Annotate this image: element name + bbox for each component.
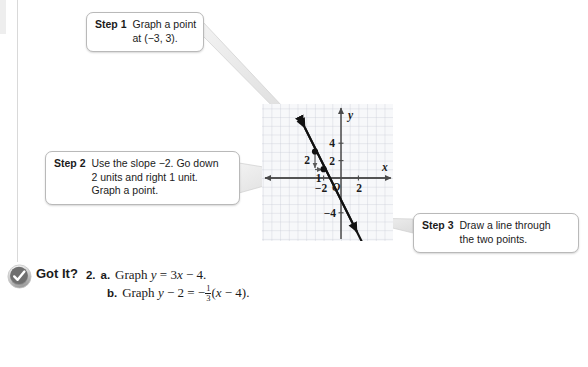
problem-2b-tail: − 4). [222,285,250,300]
problem-2b-fraction: 13 [205,284,211,303]
problem-2b: b. Graph y − 2 = −13(x − 4). [86,284,250,304]
point-neg2-1 [321,166,327,172]
callout-step-1: Step 1 Graph a point at (−3, 3). [86,12,204,52]
rise-label: 2 [304,154,310,166]
problem-2a-letter: a. [100,266,110,284]
problem-2a-text: Graph y = 3x − 4. [115,266,206,284]
step-1-line-1: Graph a point [133,18,197,32]
problem-2a-equals: = 3 [157,267,177,282]
step-2-text: Use the slope −2. Go down 2 units and ri… [92,157,231,198]
problem-2b-prefix: Graph [122,285,158,300]
step-2-line-1: Use the slope −2. Go down [92,157,231,171]
problem-2b-text: Graph y − 2 = −13(x − 4). [122,284,249,304]
step-3-text: Draw a line through the two points. [460,219,570,246]
y-axis-label: y [346,109,354,122]
step-1-label: Step 1 [95,18,133,32]
problem-2a-prefix: Graph [115,267,151,282]
step-2-line-2: 2 units and right 1 unit. [92,171,231,185]
y-tick-label-2: 2 [329,155,335,167]
step-2-line-3: Graph a point. [92,184,231,198]
got-it-title: Got It? [36,266,78,281]
got-it-block: Got It? 2. a. Graph y = 3x − 4. b. Graph… [7,262,249,304]
fraction-denominator: 3 [205,294,211,303]
point-neg3-3 [312,148,318,154]
x-axis-label: x [381,161,388,173]
y-tick-label-4: 4 [329,137,335,149]
page-corner-block [0,0,6,34]
check-circle-icon [7,264,32,289]
x-tick-label-2: 2 [356,182,362,194]
origin-label: O [332,181,340,193]
page-vertical-rule [17,0,18,262]
step-3-line-2: the two points. [460,233,570,247]
y-tick-label-neg4: −4 [324,207,337,219]
problem-2b-letter: b. [107,284,117,302]
run-label: 1 [316,172,322,184]
got-it-problems: 2. a. Graph y = 3x − 4. b. Graph y − 2 =… [86,266,250,304]
x-tick-label-neg2: −2 [315,182,328,194]
callout-step-2: Step 2 Use the slope −2. Go down 2 units… [45,151,240,205]
step-3-label: Step 3 [422,219,460,233]
problem-2a: 2. a. Graph y = 3x − 4. [86,266,250,284]
callout-step-3: Step 3 Draw a line through the two point… [413,213,579,253]
problem-number: 2. [86,266,96,284]
problem-2b-mid: − 2 = − [164,285,206,300]
step-3-line-1: Draw a line through [460,219,570,233]
step-1-text: Graph a point at (−3, 3). [133,18,197,45]
step-1-line-2: at (−3, 3). [133,32,197,46]
coordinate-graph-figure: −2 2 4 2 −4 y x O 2 1 [262,104,393,241]
step-2-label: Step 2 [54,157,92,171]
problem-2a-tail: − 4. [183,267,207,282]
